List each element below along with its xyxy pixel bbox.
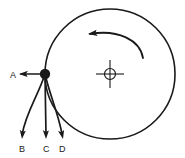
- vector-d-label: D: [59, 144, 66, 154]
- vector-a-label: A: [10, 70, 16, 80]
- vector-c-line: [45, 74, 46, 135]
- vector-d-line: [45, 74, 62, 134]
- vector-b-line: [22, 74, 45, 135]
- vector-c-label: C: [43, 144, 50, 154]
- contact-point-dot: [40, 69, 50, 79]
- velocity-vectors: [19, 71, 66, 140]
- figure-canvas: ABCD: [0, 0, 185, 158]
- rolling-wheel-diagram: ABCD: [0, 0, 185, 158]
- rotation-direction-arrow: [88, 30, 143, 58]
- axle-crosshair: [96, 60, 124, 88]
- vector-b-label: B: [19, 144, 25, 154]
